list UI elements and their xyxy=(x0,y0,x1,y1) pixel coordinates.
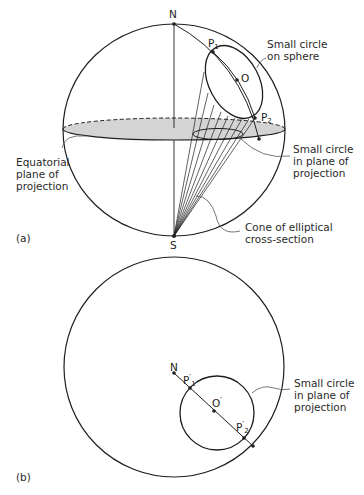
north-pole-point xyxy=(172,22,176,26)
south-pole-point xyxy=(172,234,176,238)
annotation-line: projection xyxy=(293,167,353,179)
rim-point xyxy=(251,444,255,448)
annotation-small-circle-plane-b: Small circle in plane of projection xyxy=(294,377,354,413)
annotation-line: on sphere xyxy=(267,50,327,62)
label-p1-prime: P′1 xyxy=(183,373,196,390)
label-s-a: S xyxy=(170,239,177,251)
equator-point xyxy=(257,137,261,141)
annotation-line: in plane of xyxy=(293,155,353,167)
annotation-line: Cone of elliptical xyxy=(245,221,333,233)
annotation-equatorial-plane: Equatorial plane of projection xyxy=(16,156,70,192)
annotation-cone: Cone of elliptical cross-section xyxy=(245,221,333,245)
panel-a-label: (a) xyxy=(16,232,31,244)
label-n-a: N xyxy=(169,8,177,20)
annotation-line: Small circle xyxy=(294,377,354,389)
label-o-a: O xyxy=(241,72,249,84)
annotation-line: projection xyxy=(16,180,70,192)
leader-small-circle-b xyxy=(252,387,290,393)
p2-subscript: 2 xyxy=(267,117,271,125)
annotation-small-circle-on-sphere: Small circle on sphere xyxy=(267,38,327,62)
leader-cone xyxy=(196,196,240,232)
annotation-line: plane of xyxy=(16,168,70,180)
label-p2-prime: P′2 xyxy=(236,420,249,437)
p1-subscript: 1 xyxy=(214,43,218,51)
annotation-line: Equatorial xyxy=(16,156,70,168)
o-point xyxy=(235,78,239,82)
annotation-line: projection xyxy=(294,401,354,413)
o-prime-mark: ′ xyxy=(220,397,222,406)
annotation-small-circle-plane-a: Small circle in plane of projection xyxy=(293,143,353,179)
o-prime-point xyxy=(212,409,216,413)
annotation-line: cross-section xyxy=(245,233,333,245)
annotation-line: Small circle xyxy=(293,143,353,155)
p2-point xyxy=(253,116,257,120)
annotation-line: Small circle xyxy=(267,38,327,50)
p2-prime-subscript: 2 xyxy=(244,427,248,435)
label-p1-a: P1 xyxy=(208,37,219,53)
panel-a-drawing xyxy=(62,22,290,238)
leader-equatorial-plane xyxy=(62,136,86,148)
stereographic-projection-diagram xyxy=(0,0,364,495)
label-o-prime: O′ xyxy=(212,396,222,409)
p1-prime-subscript: 1 xyxy=(191,380,195,388)
panel-b-label: (b) xyxy=(16,471,31,483)
equatorial-plane-front xyxy=(63,129,285,140)
leader-small-circle-sphere xyxy=(257,58,266,68)
annotation-line: in plane of xyxy=(294,389,354,401)
label-n-b: N xyxy=(170,361,178,373)
label-p2-a: P2 xyxy=(261,111,272,127)
